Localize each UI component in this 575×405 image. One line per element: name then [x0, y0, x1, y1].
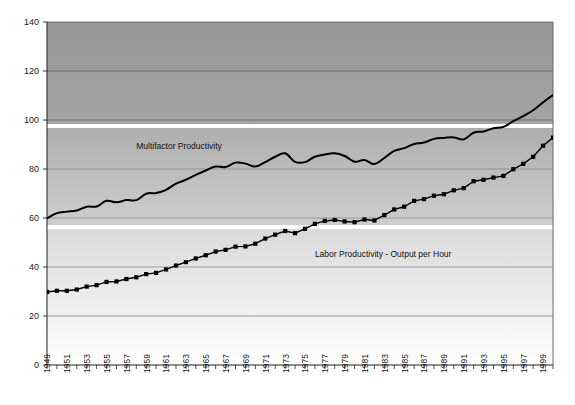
data-point-marker — [154, 271, 158, 275]
data-point-marker — [462, 186, 466, 190]
y-tick-label: 140 — [24, 17, 39, 27]
data-point-marker — [372, 218, 376, 222]
x-tick-label: 1959 — [142, 354, 152, 373]
data-point-marker — [333, 218, 337, 222]
chart-container: 020406080100120140 194919511953195519571… — [0, 0, 575, 405]
x-tick-label: 1999 — [538, 354, 548, 373]
plot-background — [47, 22, 553, 365]
x-tick-label: 1977 — [320, 354, 330, 373]
data-point-marker — [412, 199, 416, 203]
x-tick-label: 1985 — [400, 354, 410, 373]
data-point-marker — [452, 188, 456, 192]
data-point-marker — [273, 233, 277, 237]
data-point-marker — [521, 162, 525, 166]
data-point-marker — [303, 227, 307, 231]
data-point-marker — [472, 179, 476, 183]
data-point-marker — [124, 277, 128, 281]
y-tick-label: 80 — [29, 164, 39, 174]
x-tick-label: 1953 — [82, 354, 92, 373]
data-point-marker — [362, 217, 366, 221]
y-axis-labels: 020406080100120140 — [24, 17, 47, 370]
data-point-marker — [551, 136, 555, 140]
data-point-marker — [95, 283, 99, 287]
data-point-marker — [313, 222, 317, 226]
x-tick-label: 1951 — [62, 354, 72, 373]
x-tick-label: 1971 — [261, 354, 271, 373]
data-point-marker — [45, 290, 49, 294]
data-point-marker — [511, 167, 515, 171]
x-tick-label: 1963 — [181, 354, 191, 373]
data-point-marker — [293, 231, 297, 235]
y-tick-label: 60 — [29, 213, 39, 223]
y-tick-label: 120 — [24, 66, 39, 76]
data-point-marker — [85, 285, 89, 289]
data-point-marker — [223, 248, 227, 252]
data-point-marker — [243, 244, 247, 248]
y-tick-label: 0 — [34, 360, 39, 370]
data-point-marker — [164, 267, 168, 271]
x-tick-label: 1987 — [419, 354, 429, 373]
x-tick-label: 1973 — [281, 354, 291, 373]
x-tick-label: 1955 — [102, 354, 112, 373]
x-tick-label: 1983 — [380, 354, 390, 373]
x-tick-label: 1961 — [161, 354, 171, 373]
x-tick-label: 1979 — [340, 354, 350, 373]
data-point-marker — [184, 260, 188, 264]
data-point-marker — [144, 272, 148, 276]
productivity-line-chart: 020406080100120140 194919511953195519571… — [0, 0, 575, 405]
x-tick-label: 1997 — [519, 354, 529, 373]
x-tick-label: 1969 — [241, 354, 251, 373]
data-point-marker — [65, 289, 69, 293]
x-tick-label: 1995 — [499, 354, 509, 373]
x-tick-label: 1957 — [122, 354, 132, 373]
data-point-marker — [531, 155, 535, 159]
x-tick-label: 1965 — [201, 354, 211, 373]
data-point-marker — [422, 197, 426, 201]
data-point-marker — [352, 220, 356, 224]
data-point-marker — [194, 256, 198, 260]
multifactor-productivity-label: Multifactor Productivity — [136, 141, 222, 151]
data-point-marker — [204, 253, 208, 257]
data-point-marker — [214, 249, 218, 253]
data-point-marker — [323, 219, 327, 223]
data-point-marker — [174, 263, 178, 267]
data-point-marker — [283, 229, 287, 233]
data-point-marker — [491, 175, 495, 179]
data-point-marker — [541, 144, 545, 148]
data-point-marker — [442, 192, 446, 196]
data-point-marker — [402, 205, 406, 209]
data-point-marker — [75, 287, 79, 291]
x-tick-label: 1981 — [360, 354, 370, 373]
y-tick-label: 40 — [29, 262, 39, 272]
y-tick-label: 20 — [29, 311, 39, 321]
data-point-marker — [392, 207, 396, 211]
data-point-marker — [253, 242, 257, 246]
labor-productivity-label: Labor Productivity - Output per Hour — [315, 249, 452, 259]
data-point-marker — [263, 236, 267, 240]
data-point-marker — [343, 219, 347, 223]
x-tick-label: 1967 — [221, 354, 231, 373]
data-point-marker — [114, 279, 118, 283]
x-tick-label: 1993 — [479, 354, 489, 373]
x-tick-label: 1989 — [439, 354, 449, 373]
data-point-marker — [55, 289, 59, 293]
data-point-marker — [134, 275, 138, 279]
data-point-marker — [382, 213, 386, 217]
data-point-marker — [104, 280, 108, 284]
data-point-marker — [233, 245, 237, 249]
x-tick-label: 1949 — [42, 354, 52, 373]
y-tick-label: 100 — [24, 115, 39, 125]
data-point-marker — [501, 174, 505, 178]
data-point-marker — [432, 194, 436, 198]
x-tick-label: 1975 — [300, 354, 310, 373]
x-tick-label: 1991 — [459, 354, 469, 373]
data-point-marker — [481, 178, 485, 182]
